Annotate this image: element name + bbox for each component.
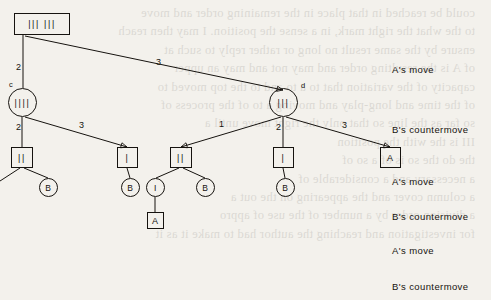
tree-edge — [0, 168, 20, 181]
edge-weight-label: 1 — [219, 119, 224, 129]
tree-edge — [127, 168, 130, 178]
tree-edge — [183, 168, 205, 178]
tree-node-tag-d: d — [301, 81, 305, 90]
tree-edge — [25, 117, 127, 147]
tree-node-root: ||| ||| — [14, 13, 70, 35]
edge-weight-label: 3 — [79, 120, 84, 130]
game-tree-figure: ||| |||||||c|||d||||||ABBIBBA 2323123 A'… — [0, 0, 491, 300]
tree-node-label: || — [18, 153, 26, 163]
tree-node-b4: B — [276, 178, 295, 197]
row-label-2: A's move — [392, 176, 434, 187]
edge-weight-label: 2 — [16, 122, 21, 132]
tree-node-b3: B — [196, 178, 215, 197]
tree-node-label: ||| — [278, 98, 290, 108]
tree-node-tag-c: c — [9, 80, 13, 89]
tree-node-d: ||| — [269, 88, 298, 117]
row-label-3: B's countermove — [392, 211, 468, 222]
tree-node-label: A — [152, 216, 159, 226]
tree-node-b2: B — [121, 178, 140, 197]
tree-node-label: I — [154, 183, 157, 193]
tree-node-label: A — [387, 153, 394, 163]
row-label-4: A's move — [392, 245, 434, 256]
tree-node-label: |||| — [15, 98, 31, 108]
tree-node-label: | — [126, 153, 130, 163]
tree-edge — [156, 168, 179, 178]
tree-edge — [181, 117, 281, 147]
tree-node-label: || — [177, 153, 185, 163]
tree-node-label: B — [45, 183, 51, 193]
tree-edge — [283, 168, 285, 178]
edge-weight-label: 2 — [276, 122, 281, 132]
tree-node-i1: I — [146, 178, 165, 197]
tree-edge — [24, 168, 48, 178]
tree-node-label: B — [282, 183, 288, 193]
tree-node-label: | — [282, 153, 286, 163]
tree-node-n5: A — [380, 147, 401, 168]
edge-weight-label: 3 — [156, 57, 161, 67]
tree-node-c: |||| — [8, 88, 37, 117]
tree-node-a1: A — [147, 212, 164, 229]
tree-node-label: B — [127, 183, 133, 193]
tree-node-n4: | — [273, 147, 294, 168]
tree-node-b1: B — [39, 178, 58, 197]
tree-node-n3: || — [170, 147, 192, 168]
edge-weight-label: 2 — [16, 62, 21, 72]
tree-node-label: B — [202, 183, 208, 193]
tree-edge — [25, 36, 283, 90]
edge-weight-label: 3 — [342, 120, 347, 130]
row-label-0: A's move — [392, 64, 434, 75]
tree-node-n1: || — [11, 147, 33, 168]
tree-edge — [286, 117, 390, 147]
row-label-5: B's countermove — [392, 281, 468, 292]
row-label-1: B's countermove — [392, 124, 468, 135]
tree-node-n2: | — [117, 147, 138, 168]
tree-node-label: ||| ||| — [28, 19, 56, 29]
